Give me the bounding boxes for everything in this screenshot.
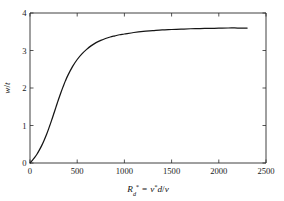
y-tick-label: 2 (22, 83, 26, 93)
x-title-equals: = (142, 184, 147, 194)
y-tick-label: 0 (22, 158, 26, 168)
x-tick-label: 2000 (210, 166, 227, 176)
y-tick-label: 1 (22, 121, 26, 131)
y-axis-title-group: w/t (2, 82, 12, 94)
y-axis-title: w/t (2, 82, 12, 94)
y-tick-label: 3 (22, 46, 26, 56)
chart-background (0, 0, 284, 201)
y-title-denominator: t (2, 82, 12, 85)
y-tick-label: 4 (22, 8, 27, 18)
x-tick-label: 1500 (163, 166, 180, 176)
x-title-star-1: * (136, 183, 139, 190)
figure-container: 05001000150020002500 01234 Rd*=v*d/v w/t (0, 0, 284, 201)
x-tick-label: 2500 (257, 166, 274, 176)
x-tick-label: 0 (28, 166, 32, 176)
x-tick-label: 1000 (116, 166, 133, 176)
x-tick-label: 500 (71, 166, 84, 176)
chart-canvas: 05001000150020002500 01234 Rd*=v*d/v w/t (0, 0, 284, 201)
